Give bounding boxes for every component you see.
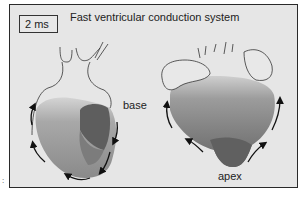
panel-mark: : (2, 176, 4, 185)
base-label: base (123, 99, 147, 111)
figure-title: Fast ventricular conduction system (70, 11, 239, 23)
apex-label: apex (218, 170, 242, 182)
right-heart (162, 42, 280, 167)
time-label-box: 2 ms (19, 15, 58, 33)
left-heart (31, 42, 117, 180)
right-early-activation (210, 137, 252, 167)
right-vessels (198, 42, 233, 58)
right-atrium-right (244, 50, 272, 81)
